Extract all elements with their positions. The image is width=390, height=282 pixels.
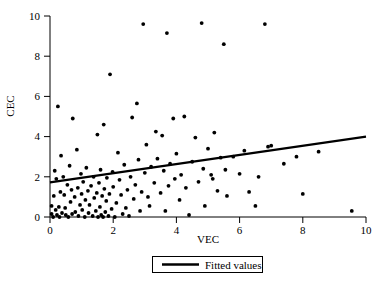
data-point — [211, 177, 215, 181]
data-point — [69, 200, 73, 204]
data-point — [88, 203, 92, 207]
data-point — [137, 158, 141, 162]
data-point — [179, 173, 183, 177]
data-point — [75, 148, 79, 152]
data-point — [295, 155, 299, 159]
data-point — [197, 180, 201, 184]
data-point — [66, 215, 70, 219]
data-point — [140, 190, 144, 194]
data-point — [87, 211, 91, 215]
data-point — [63, 206, 67, 210]
data-point — [263, 22, 267, 26]
x-tick-label: 4 — [174, 224, 180, 236]
x-tick-label: 0 — [47, 224, 53, 236]
data-point — [73, 195, 77, 199]
data-point — [182, 115, 186, 119]
data-point — [97, 181, 101, 185]
data-point — [156, 157, 160, 161]
data-point — [269, 144, 273, 148]
data-point — [209, 173, 213, 177]
data-point — [175, 152, 179, 156]
data-point — [110, 207, 114, 211]
data-point — [100, 194, 104, 198]
y-tick-label: 10 — [29, 10, 41, 22]
data-point — [127, 214, 131, 218]
y-tick-label: 6 — [35, 90, 41, 102]
data-point — [61, 175, 65, 179]
data-point — [193, 136, 197, 140]
data-point — [132, 197, 136, 201]
data-point — [223, 168, 227, 172]
data-point — [83, 215, 87, 219]
data-point — [70, 188, 74, 192]
y-axis-title: CEC — [4, 95, 16, 116]
data-point — [114, 201, 118, 205]
data-point — [146, 195, 150, 199]
y-tick-label: 2 — [35, 171, 41, 183]
data-point — [154, 130, 158, 134]
y-tick-label: 0 — [35, 211, 41, 223]
data-point — [201, 167, 205, 171]
data-point — [108, 192, 112, 196]
data-point — [51, 215, 55, 219]
data-point — [50, 204, 54, 208]
data-point — [203, 204, 207, 208]
data-point — [138, 209, 142, 213]
data-point — [200, 21, 204, 25]
data-point — [121, 212, 125, 216]
data-point — [159, 191, 163, 195]
data-point — [162, 169, 166, 173]
data-point — [80, 208, 84, 212]
data-point — [257, 175, 261, 179]
data-point — [116, 151, 120, 155]
data-point — [68, 164, 72, 168]
data-point — [78, 203, 82, 207]
data-point — [81, 180, 85, 184]
data-point — [247, 190, 251, 194]
data-point — [144, 143, 148, 147]
data-point — [122, 163, 126, 167]
data-point — [317, 150, 321, 154]
data-point — [57, 205, 61, 209]
data-point — [102, 187, 106, 191]
data-point — [84, 166, 88, 170]
data-point — [77, 214, 81, 218]
data-point — [135, 102, 139, 106]
data-point — [184, 186, 188, 190]
y-tick-label: 4 — [35, 130, 41, 142]
legend-label: Fitted values — [205, 259, 262, 271]
data-point — [107, 214, 111, 218]
data-point — [350, 209, 354, 213]
x-tick-label: 2 — [110, 224, 116, 236]
data-point — [96, 215, 100, 219]
data-point — [187, 213, 191, 217]
data-point — [225, 194, 229, 198]
data-point — [54, 177, 58, 181]
data-point — [99, 168, 103, 172]
data-point — [282, 162, 286, 166]
data-point — [101, 215, 105, 219]
legend: Fitted values — [153, 257, 263, 273]
data-point — [178, 198, 182, 202]
data-point — [98, 205, 102, 209]
data-point — [160, 134, 164, 138]
data-point — [53, 169, 57, 173]
data-point — [148, 204, 152, 208]
data-point — [59, 154, 63, 158]
data-point — [70, 212, 74, 216]
data-point — [152, 181, 156, 185]
data-point — [91, 214, 95, 218]
data-point — [95, 191, 99, 195]
data-point — [212, 131, 216, 135]
chart-svg: 0246810 0246810 VEC CEC Fitted values — [0, 0, 390, 282]
data-point — [254, 204, 258, 208]
data-point — [54, 208, 58, 212]
data-point — [86, 189, 90, 193]
y-tick-label: 8 — [35, 50, 41, 62]
data-point — [165, 31, 169, 35]
data-point — [216, 189, 220, 193]
data-point — [124, 206, 128, 210]
data-point — [126, 188, 130, 192]
data-point — [80, 192, 84, 196]
data-point — [94, 209, 98, 213]
